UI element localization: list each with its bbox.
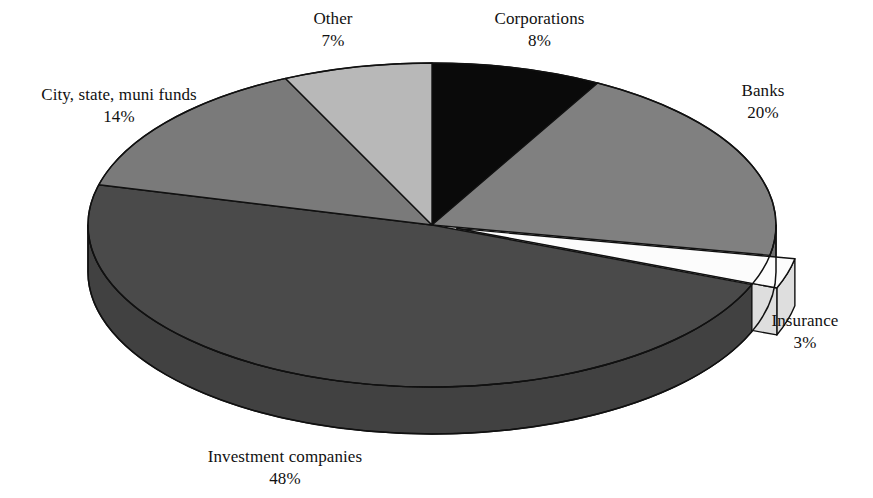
pie-chart-graphic: [0, 0, 873, 498]
pie-label-other-name: Other: [258, 8, 408, 30]
pie-label-banks: Banks 20%: [688, 80, 838, 124]
pie-label-corporations-value: 8%: [452, 30, 627, 52]
pie-label-other: Other 7%: [258, 8, 408, 52]
pie-label-city-state-muni-funds: City, state, muni funds 14%: [4, 84, 234, 128]
pie-label-banks-name: Banks: [688, 80, 838, 102]
pie-label-city-state-muni-funds-value: 14%: [4, 106, 234, 128]
pie-label-corporations: Corporations 8%: [452, 8, 627, 52]
pie-label-investment-companies-name: Investment companies: [160, 446, 410, 468]
pie-label-corporations-name: Corporations: [452, 8, 627, 30]
pie-label-other-value: 7%: [258, 30, 408, 52]
pie-label-insurance-value: 3%: [740, 332, 870, 354]
pie-chart-page: Other 7% Corporations 8% Banks 20% Insur…: [0, 0, 873, 498]
pie-label-investment-companies-value: 48%: [160, 468, 410, 490]
pie-label-insurance: Insurance 3%: [740, 310, 870, 354]
pie-label-investment-companies: Investment companies 48%: [160, 446, 410, 490]
pie-label-insurance-name: Insurance: [740, 310, 870, 332]
pie-label-city-state-muni-funds-name: City, state, muni funds: [4, 84, 234, 106]
pie-label-banks-value: 20%: [688, 102, 838, 124]
